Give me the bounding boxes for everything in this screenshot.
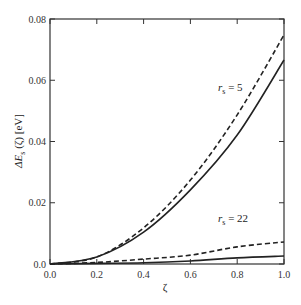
axis-ticks bbox=[50, 19, 284, 264]
y-tick-label: 0.08 bbox=[29, 14, 47, 25]
y-tick-label: 0.0 bbox=[34, 259, 47, 270]
x-tick-label: 0.8 bbox=[231, 269, 244, 280]
annotation-rs22: rs = 22 bbox=[218, 212, 248, 227]
tick-labels: 0.00.20.40.60.81.00.00.020.040.060.08 bbox=[29, 14, 291, 281]
data-series bbox=[50, 35, 284, 264]
plot-border bbox=[50, 19, 284, 264]
series-rs5-solid bbox=[50, 60, 284, 264]
plot-frame bbox=[50, 19, 284, 264]
series-rs5-dashed bbox=[50, 35, 284, 264]
y-axis-title: ΔEs (ζ) [eV] bbox=[12, 114, 27, 169]
x-tick-label: 0.2 bbox=[91, 269, 104, 280]
y-tick-label: 0.04 bbox=[29, 136, 47, 147]
x-tick-label: 0.6 bbox=[184, 269, 197, 280]
x-tick-label: 1.0 bbox=[278, 269, 291, 280]
annotation-rs5: rs = 5 bbox=[218, 81, 243, 96]
x-axis-title: ζ bbox=[163, 281, 168, 294]
chart: 0.00.20.40.60.81.00.00.020.040.060.08 rs… bbox=[0, 0, 301, 305]
y-tick-label: 0.06 bbox=[29, 75, 47, 86]
x-tick-label: 0.4 bbox=[137, 269, 150, 280]
y-tick-label: 0.02 bbox=[29, 197, 47, 208]
x-tick-label: 0.0 bbox=[44, 269, 57, 280]
